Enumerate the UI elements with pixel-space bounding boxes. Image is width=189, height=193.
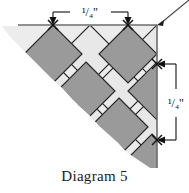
right-dimension-label: ¹/₄" [168,96,184,110]
diagram-canvas: ¹/₄" ¹/₄" [0,0,189,193]
top-dimension-label: ¹/₄" [82,5,98,19]
diagram-figure: ¹/₄" ¹/₄" [0,0,189,193]
figure-caption: Diagram 5 [0,168,189,185]
